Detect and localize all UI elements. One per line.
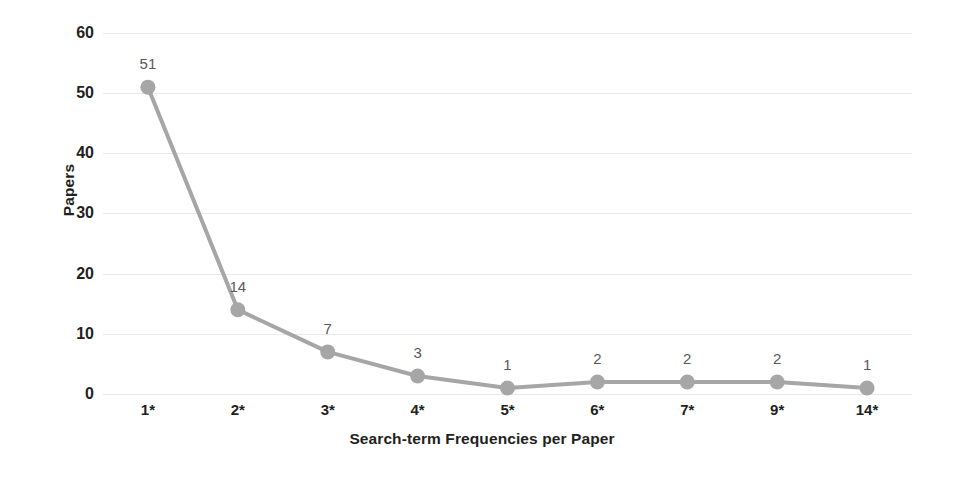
y-axis-tick-labels: 60 50 40 30 20 10 0: [48, 0, 94, 483]
x-tick-label: 2*: [231, 402, 245, 417]
x-axis-tick-labels: 1*2*3*4*5*6*7*9*14*: [103, 0, 912, 483]
y-tick-label: 30: [48, 205, 94, 221]
y-tick-label: 10: [48, 326, 94, 342]
x-tick-label: 7*: [680, 402, 694, 417]
y-tick-label: 20: [48, 266, 94, 282]
x-tick-label: 5*: [500, 402, 514, 417]
x-tick-label: 6*: [590, 402, 604, 417]
y-tick-label: 60: [48, 25, 94, 41]
x-tick-label: 9*: [770, 402, 784, 417]
x-tick-label: 1*: [141, 402, 155, 417]
line-chart: Papers 60 50 40 30 20 10 0 51147312221 1…: [0, 0, 964, 483]
x-tick-label: 14*: [856, 402, 879, 417]
y-tick-label: 40: [48, 145, 94, 161]
x-tick-label: 3*: [321, 402, 335, 417]
x-axis-title: Search-term Frequencies per Paper: [0, 430, 964, 448]
x-tick-label: 4*: [411, 402, 425, 417]
y-tick-label: 50: [48, 85, 94, 101]
y-tick-label: 0: [48, 386, 94, 402]
